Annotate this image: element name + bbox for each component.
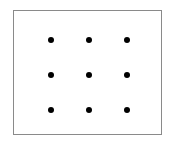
dot xyxy=(86,37,92,43)
dot xyxy=(86,107,92,113)
dot xyxy=(124,107,130,113)
dot xyxy=(48,37,54,43)
dot xyxy=(48,107,54,113)
dot xyxy=(124,37,130,43)
dot xyxy=(48,72,54,78)
dot xyxy=(86,72,92,78)
dot xyxy=(124,72,130,78)
